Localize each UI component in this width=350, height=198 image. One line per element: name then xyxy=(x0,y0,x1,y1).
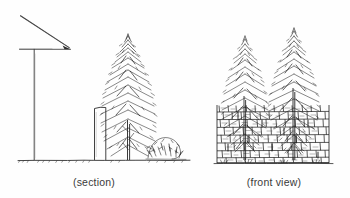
caption-section: (section) xyxy=(38,176,150,188)
caption-front-view: (front view) xyxy=(218,176,330,188)
figure-illustration xyxy=(0,0,350,198)
figure-root: (section) (front view) xyxy=(0,0,350,198)
vertical-pole xyxy=(34,49,35,160)
